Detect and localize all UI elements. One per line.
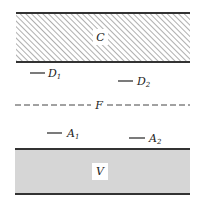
conduction-band-label: C xyxy=(96,31,105,44)
acceptor-level-a2: A2 xyxy=(129,132,162,146)
a2-letter: A xyxy=(148,132,157,145)
d1-letter: D xyxy=(47,67,57,80)
donor-level-d1: D1 xyxy=(30,67,61,81)
d2-letter: D xyxy=(136,75,146,88)
diagram-svg: C D1 D2 F A1 A2 xyxy=(0,0,201,203)
d1-subscript: 1 xyxy=(57,73,61,81)
fermi-level: F xyxy=(15,99,190,112)
conduction-band: C xyxy=(16,13,190,62)
a2-subscript: 2 xyxy=(156,138,162,146)
svg-text:D1: D1 xyxy=(47,67,61,81)
svg-text:A1: A1 xyxy=(66,127,79,141)
acceptor-level-a1: A1 xyxy=(47,127,79,141)
energy-band-diagram: C D1 D2 F A1 A2 xyxy=(0,0,201,203)
valence-band: V xyxy=(15,149,190,194)
donor-level-d2: D2 xyxy=(118,75,151,89)
valence-band-label: V xyxy=(96,165,105,178)
svg-text:A2: A2 xyxy=(148,132,162,146)
d2-subscript: 2 xyxy=(145,81,151,89)
fermi-label: F xyxy=(94,99,103,112)
svg-text:D2: D2 xyxy=(136,75,151,89)
a1-letter: A xyxy=(66,127,75,140)
a1-subscript: 1 xyxy=(75,133,79,141)
